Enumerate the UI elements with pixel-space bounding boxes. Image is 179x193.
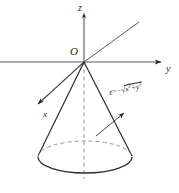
- z-axis-label: z: [78, 3, 82, 13]
- x-axis-line: [38, 62, 84, 104]
- origin-label: O: [70, 46, 78, 57]
- x-axis-label: x: [43, 110, 47, 119]
- cone-figure: z y x O z=−√x2+y2: [0, 0, 179, 193]
- y-axis-label: y: [166, 64, 170, 74]
- cone-diagram-svg: [0, 0, 179, 193]
- cone-base-ellipse-front: [38, 157, 132, 173]
- cone-base-ellipse-back-dashed: [38, 141, 132, 157]
- cone-slant-right: [84, 62, 132, 156]
- x-axis-negative-extension: [84, 22, 139, 62]
- radicand-y-exponent: 2: [138, 80, 142, 86]
